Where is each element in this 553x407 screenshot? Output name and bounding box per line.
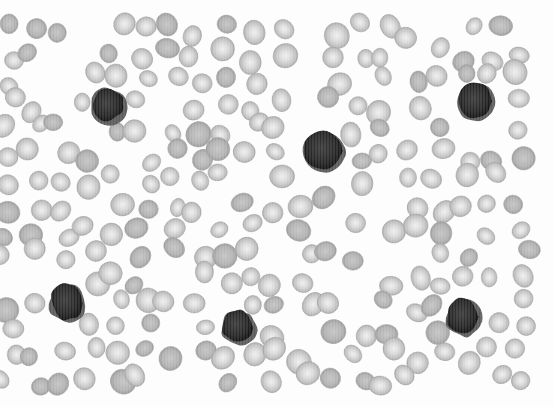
scanline-texture: [0, 0, 553, 407]
blood-smear-image: [0, 0, 553, 407]
